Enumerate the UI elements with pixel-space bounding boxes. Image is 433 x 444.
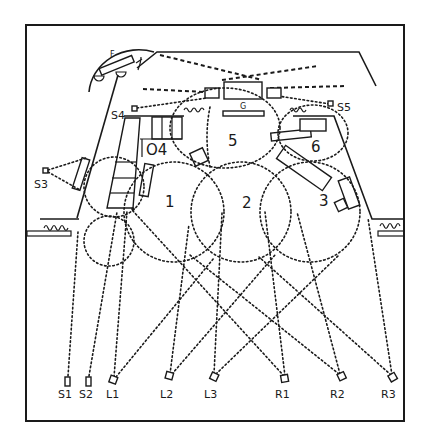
label-L3: L3 xyxy=(204,388,217,401)
label-F: F xyxy=(110,50,115,59)
instrument-S2 xyxy=(86,377,91,386)
stage-walls xyxy=(27,52,404,236)
area-label-5: 5 xyxy=(228,132,238,150)
label-S5: S5 xyxy=(337,101,351,114)
instrument-R1 xyxy=(281,374,289,382)
lighting-plot-diagram: F G xyxy=(0,0,433,444)
label-R3: R3 xyxy=(381,388,396,401)
label-S1: S1 xyxy=(58,388,72,401)
front-instruments xyxy=(65,371,397,386)
stair-unit xyxy=(72,118,153,211)
area-label-3: 3 xyxy=(319,192,329,210)
label-R1: R1 xyxy=(275,388,290,401)
label-S2: S2 xyxy=(79,388,93,401)
area-label-1: 1 xyxy=(165,193,175,211)
label-G: G xyxy=(240,102,246,111)
label-S3: S3 xyxy=(34,178,48,191)
area-label-2: 2 xyxy=(242,194,252,212)
right-units xyxy=(271,119,360,212)
cyc-lights: G xyxy=(137,55,345,116)
area-label-4: O4 xyxy=(146,141,167,159)
label-L1: L1 xyxy=(106,388,119,401)
label-S4: S4 xyxy=(111,109,125,122)
instrument-S1 xyxy=(65,377,70,386)
front-beams xyxy=(68,211,392,377)
label-L2: L2 xyxy=(160,388,173,401)
label-R2: R2 xyxy=(330,388,345,401)
instrument-L2 xyxy=(165,371,174,380)
area-label-6: 6 xyxy=(311,138,321,156)
upstage-left-unit: F xyxy=(89,50,154,92)
instrument-L1 xyxy=(109,375,118,384)
